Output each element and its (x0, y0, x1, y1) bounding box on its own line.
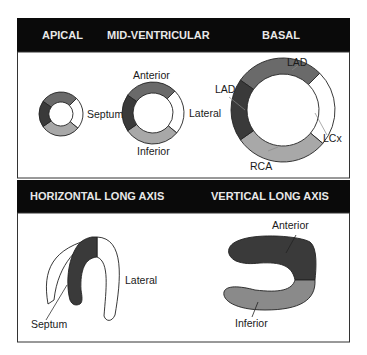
header-horizontal-long-axis: HORIZONTAL LONG AXIS (30, 190, 164, 202)
label-anterior-mid: Anterior (133, 69, 170, 81)
label-lad-left: LAD (215, 83, 236, 95)
header-mid-ventricular: MID-VENTRICULAR (107, 29, 210, 41)
label-lateral-mid: Lateral (189, 107, 221, 119)
label-anterior-vla: Anterior (272, 219, 309, 231)
label-inferior-vla: Inferior (235, 317, 268, 329)
label-lad-top: LAD (287, 56, 308, 68)
label-inferior-mid: Inferior (137, 145, 170, 157)
header-apical: APICAL (42, 29, 83, 41)
header-vertical-long-axis: VERTICAL LONG AXIS (211, 190, 329, 202)
label-septum-apical: Septum (87, 108, 123, 120)
header-basal: BASAL (262, 29, 300, 41)
label-septum-hla: Septum (31, 318, 67, 330)
label-rca: RCA (250, 160, 272, 172)
coronary-territory-diagram: APICAL MID-VENTRICULAR BASAL Septum Ante… (0, 0, 367, 355)
label-lateral-hla: Lateral (125, 274, 157, 286)
label-lcx: LCx (323, 132, 342, 144)
